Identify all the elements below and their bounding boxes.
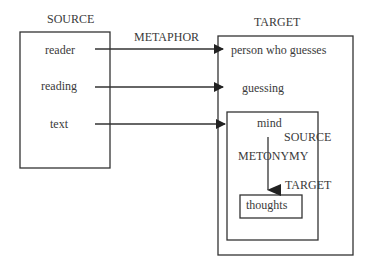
target-domain-title: TARGET: [254, 15, 300, 29]
source-item-reading: reading: [41, 79, 77, 93]
inner-item-mind: mind: [257, 116, 282, 130]
source-item-text: text: [50, 117, 68, 131]
target-item-guessing: guessing: [242, 81, 284, 95]
metaphor-label: METAPHOR: [134, 30, 199, 44]
source-item-reader: reader: [45, 43, 75, 57]
inner-source-label: SOURCE: [284, 130, 331, 144]
inner-item-thoughts: thoughts: [246, 198, 287, 212]
target-item-person-who-guesses: person who guesses: [231, 43, 326, 57]
source-domain-title: SOURCE: [47, 12, 94, 26]
metonymy-label: METONYMY: [238, 149, 308, 163]
inner-target-label: TARGET: [285, 178, 331, 192]
target-domain-box: [218, 36, 353, 255]
